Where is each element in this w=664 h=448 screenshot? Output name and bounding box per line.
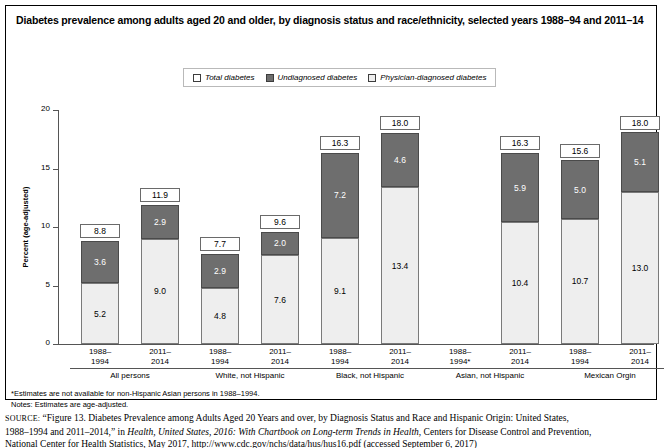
x-axis-period-label: 2011–2014	[250, 347, 310, 366]
bar-segment-physician-diagnosed[interactable]: 7.6	[261, 255, 299, 344]
x-axis-group: 1988–19942011–2014All persons	[70, 347, 190, 380]
x-axis-period-label: 1988–1994	[190, 347, 250, 366]
footnotes: *Estimates are not available for non-His…	[11, 389, 511, 410]
x-axis-period-line1: 1988–	[70, 347, 130, 357]
x-axis-period-label: 1988–1994	[550, 347, 610, 366]
bar-total-label: 18.0	[380, 116, 420, 130]
x-axis-period-label: 1988–1994	[310, 347, 370, 366]
y-axis-tick-label: 10	[41, 221, 50, 230]
bar-segment-undiagnosed[interactable]: 4.6	[381, 133, 419, 187]
x-axis-group: 1988–1994*2011–2014Asian, not Hispanic	[430, 347, 550, 380]
bar-total-label: 8.8	[80, 224, 120, 238]
x-axis-period-label: 2011–2014	[610, 347, 664, 366]
source-publication-title: Health, United States, 2016: With Chartb…	[127, 427, 419, 437]
source-citation: SOURCE: “Figure 13. Diabetes Prevalence …	[5, 412, 660, 448]
y-axis-line	[58, 110, 59, 344]
bar-total-label: 16.3	[320, 136, 360, 150]
x-axis-group-periods: 1988–1994*2011–2014	[430, 347, 550, 366]
source-text-2-pre: 1988–1994 and 2011–2014,” in	[5, 427, 127, 437]
x-axis-period-line2: 2014	[370, 357, 430, 367]
x-axis-group: 1988–19942011–2014White, not Hispanic	[190, 347, 310, 380]
bar-segment-undiagnosed[interactable]: 2.9	[141, 205, 179, 239]
x-axis-period-line1: 2011–	[490, 347, 550, 357]
source-line-1: SOURCE: “Figure 13. Diabetes Prevalence …	[5, 412, 660, 426]
x-axis-group: 1988–19942011–2014Black, not Hispanic	[310, 347, 430, 380]
bar-segment-undiagnosed[interactable]: 5.1	[621, 132, 659, 192]
stacked-bar[interactable]: 13.05.118.0	[621, 133, 659, 344]
bar-total-label: 11.9	[140, 188, 180, 202]
x-axis-period-line2: 2014	[610, 357, 664, 367]
bar-total-label: 7.7	[200, 237, 240, 251]
bar-segment-undiagnosed[interactable]: 5.0	[561, 160, 599, 219]
bar-segment-physician-diagnosed[interactable]: 4.8	[201, 288, 239, 344]
bar-total-label: 15.6	[560, 144, 600, 158]
stacked-bar[interactable]: 10.75.015.6	[561, 161, 599, 344]
y-axis-tick-label: 5	[46, 280, 50, 289]
source-text-1: “Figure 13. Diabetes Prevalence among Ad…	[43, 413, 569, 423]
x-axis-period-line1: 2011–	[610, 347, 664, 357]
x-axis-group-periods: 1988–19942011–2014	[70, 347, 190, 366]
x-axis-group-rule	[310, 368, 430, 369]
stacked-bar[interactable]: 9.17.216.3	[321, 153, 359, 344]
bar-total-label: 18.0	[620, 116, 660, 130]
y-axis-tick-label: 0	[46, 338, 50, 347]
x-axis-group-rule	[70, 368, 190, 369]
footnote-notes: Notes: Estimates are age-adjusted.	[11, 400, 511, 411]
bar-segment-physician-diagnosed[interactable]: 9.1	[321, 238, 359, 344]
x-axis-period-line2: 1994	[310, 357, 370, 367]
x-axis-group-periods: 1988–19942011–2014	[310, 347, 430, 366]
x-axis-period-line2: 2014	[250, 357, 310, 367]
bar-segment-undiagnosed[interactable]: 5.9	[501, 153, 539, 222]
bar-segment-undiagnosed[interactable]: 2.0	[261, 232, 299, 255]
y-axis-tick-label: 15	[41, 163, 50, 172]
bar-segment-physician-diagnosed[interactable]: 9.0	[141, 239, 179, 344]
legend-item-label: Physician-diagnosed diabetes	[380, 73, 486, 82]
bar-segment-undiagnosed[interactable]: 7.2	[321, 153, 359, 237]
bar-total-label: 9.6	[260, 215, 300, 229]
stacked-bar[interactable]: 4.82.97.7	[201, 254, 239, 344]
source-label: SOURCE:	[5, 414, 40, 423]
x-axis-period-line1: 1988–	[310, 347, 370, 357]
bar-segment-physician-diagnosed[interactable]: 13.4	[381, 187, 419, 344]
x-axis-period-line2: 2014	[130, 357, 190, 367]
x-axis-group-label: White, not Hispanic	[190, 371, 310, 380]
x-axis-group-label: Mexican Orgin	[550, 371, 664, 380]
stacked-bar[interactable]: 7.62.09.6	[261, 232, 299, 344]
y-axis-tick: 5	[53, 286, 58, 287]
bar-segment-physician-diagnosed[interactable]: 5.2	[81, 283, 119, 344]
legend-item: Physician-diagnosed diabetes	[368, 73, 486, 82]
legend-item-label: Undiagnosed diabetes	[278, 73, 358, 82]
bar-segment-undiagnosed[interactable]: 3.6	[81, 241, 119, 283]
bar-total-label: 16.3	[500, 136, 540, 150]
legend-item: Total diabetes	[193, 73, 255, 82]
y-axis-tick: 10	[53, 227, 58, 228]
x-axis-period-line2: 1994*	[430, 357, 490, 367]
bar-segment-physician-diagnosed[interactable]: 13.0	[621, 192, 659, 344]
x-axis-period-label: 2011–2014	[130, 347, 190, 366]
legend-swatch-light	[368, 74, 376, 82]
y-axis-tick: 20	[53, 110, 58, 111]
x-axis-period-line1: 1988–	[550, 347, 610, 357]
legend-item-label: Total diabetes	[205, 73, 255, 82]
x-axis-period-line1: 2011–	[250, 347, 310, 357]
x-axis-period-label: 2011–2014	[370, 347, 430, 366]
stacked-bar[interactable]: 10.45.916.3	[501, 153, 539, 344]
x-axis-period-line1: 2011–	[130, 347, 190, 357]
source-line-2: 1988–1994 and 2011–2014,” in Health, Uni…	[5, 426, 660, 439]
x-axis-group-label: All persons	[70, 371, 190, 380]
legend-swatch-white	[193, 74, 201, 82]
legend-item: Undiagnosed diabetes	[266, 73, 358, 82]
plot-area: 051015205.23.68.89.02.911.94.82.97.77.62…	[58, 110, 654, 344]
bar-segment-undiagnosed[interactable]: 2.9	[201, 254, 239, 288]
x-axis-period-line2: 1994	[190, 357, 250, 367]
stacked-bar[interactable]: 13.44.618.0	[381, 133, 419, 344]
y-axis-tick: 0	[53, 344, 58, 345]
stacked-bar[interactable]: 9.02.911.9	[141, 205, 179, 344]
stacked-bar[interactable]: 5.23.68.8	[81, 241, 119, 344]
y-axis-tick: 15	[53, 169, 58, 170]
x-axis-period-line1: 1988–	[190, 347, 250, 357]
x-axis-group-rule	[190, 368, 310, 369]
x-axis-group-rule	[430, 368, 550, 369]
bar-segment-physician-diagnosed[interactable]: 10.7	[561, 219, 599, 344]
bar-segment-physician-diagnosed[interactable]: 10.4	[501, 222, 539, 344]
